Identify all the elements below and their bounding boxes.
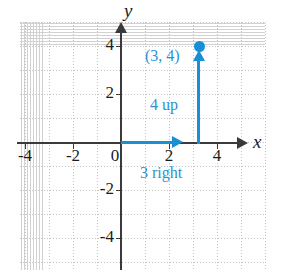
x-axis-label: x bbox=[253, 131, 261, 153]
y-axis-arrowhead-icon bbox=[115, 22, 127, 33]
y-tick-mark bbox=[116, 94, 121, 95]
y-tick-label-neg4: -4 bbox=[84, 227, 114, 247]
y-tick-label-neg2: -2 bbox=[84, 179, 114, 199]
point-coordinate-label: (3, 4) bbox=[145, 47, 180, 65]
x-tick-label-zero: 0 bbox=[100, 146, 130, 166]
x-tick-label-neg4: -4 bbox=[10, 146, 40, 166]
y-axis-label: y bbox=[124, 0, 132, 22]
x-tick-label-2: 2 bbox=[154, 146, 184, 166]
x-tick-label-4: 4 bbox=[202, 146, 232, 166]
vertical-vector-label: 4 up bbox=[150, 96, 178, 114]
x-axis-arrowhead-icon bbox=[237, 137, 248, 149]
y-tick-label-4: 4 bbox=[84, 35, 114, 55]
x-tick-label-neg2: -2 bbox=[58, 146, 88, 166]
horizontal-vector-arrowhead-icon bbox=[172, 136, 183, 148]
vertical-vector-line bbox=[197, 60, 200, 144]
horizontal-vector-line bbox=[121, 141, 174, 144]
horizontal-vector-label: 3 right bbox=[140, 164, 182, 182]
grid-line-vertical bbox=[265, 22, 266, 270]
y-tick-mark bbox=[116, 190, 121, 191]
y-tick-mark bbox=[116, 238, 121, 239]
plotted-point-marker bbox=[194, 41, 205, 52]
coordinate-plane-figure: x y -4 -2 0 2 4 4 2 -2 -4 (3, 4) 4 up 3 … bbox=[0, 0, 281, 274]
y-tick-mark bbox=[116, 46, 121, 47]
y-tick-label-2: 2 bbox=[84, 83, 114, 103]
